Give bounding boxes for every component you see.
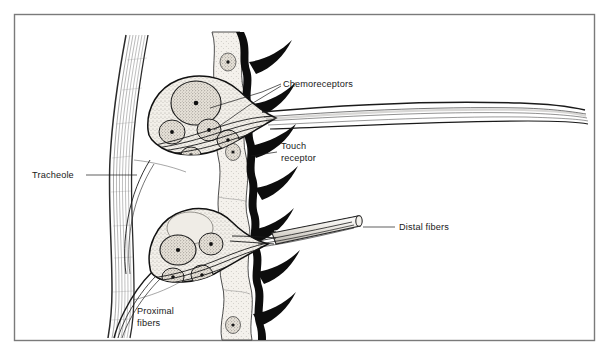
label-distal-fibers: Distal fibers <box>399 222 449 232</box>
diagram-svg: Chemoreceptors Touch receptor Tracheole … <box>0 0 609 356</box>
label-touch-receptor-line1: Touch <box>281 141 306 151</box>
label-proximal-fibers-line2: fibers <box>137 318 161 328</box>
upper-large-neuron <box>171 81 221 125</box>
label-chemoreceptors: Chemoreceptors <box>283 79 353 89</box>
figure-border <box>15 15 595 341</box>
diagram-canvas: Chemoreceptors Touch receptor Tracheole … <box>0 0 609 356</box>
label-proximal-fibers-line1: Proximal <box>137 306 174 316</box>
label-tracheole: Tracheole <box>32 170 74 180</box>
label-touch-receptor-line2: receptor <box>281 153 316 163</box>
